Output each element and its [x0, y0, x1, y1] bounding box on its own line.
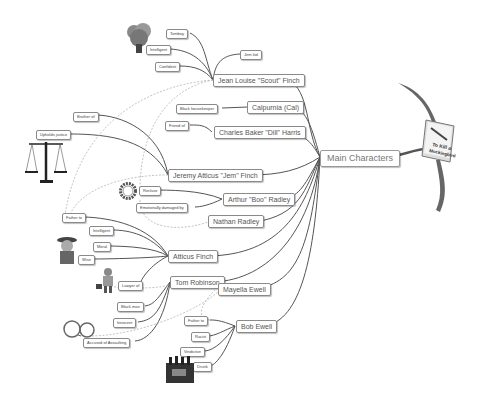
- trait-racist[interactable]: Racist: [191, 332, 210, 342]
- character-mayella[interactable]: Mayella Ewell: [218, 283, 271, 296]
- scales-of-justice-icon: [24, 140, 68, 184]
- character-boo[interactable]: Arthur "Boo" Radley: [223, 193, 295, 206]
- ring-icon: [118, 181, 138, 201]
- character-calpurnia[interactable]: Calpurnia (Cal): [247, 101, 304, 114]
- trait-wise[interactable]: Wise: [78, 255, 95, 265]
- trait-upholds-justice[interactable]: Upholds justice: [36, 130, 71, 140]
- central-topic[interactable]: Main Characters: [320, 150, 400, 167]
- trait-friend-of[interactable]: Friend of: [165, 121, 189, 131]
- trait-tomboy[interactable]: Tomboy: [166, 29, 188, 39]
- beer-crate-icon: [165, 355, 195, 385]
- handcuffs-icon: [62, 318, 96, 344]
- trait-black-housekeeper[interactable]: Black housekeeper: [176, 104, 218, 114]
- lawyer-icon: [56, 235, 78, 265]
- character-jem[interactable]: Jeremy Atticus "Jem" Finch: [168, 169, 263, 182]
- trait-jem-kid[interactable]: Jem kid: [240, 50, 262, 60]
- character-dill[interactable]: Charles Baker "Dill" Harris: [214, 126, 306, 139]
- to-kill-a-mockingbird-book-icon[interactable]: To Kill a Mockingbird: [420, 116, 456, 164]
- trait-innocent[interactable]: Innocent: [113, 318, 136, 328]
- character-bob[interactable]: Bob Ewell: [236, 320, 277, 333]
- trait-lawyer-of[interactable]: Lawyer of: [118, 281, 143, 291]
- trait-emotionally-damaged-by[interactable]: Emotionally damaged by: [136, 203, 188, 213]
- trait-drunk[interactable]: Drunk: [193, 362, 212, 372]
- character-atticus[interactable]: Atticus Finch: [168, 250, 218, 263]
- trait-intelligent[interactable]: Intelligent: [89, 226, 114, 236]
- trait-confident[interactable]: Confident: [155, 62, 180, 72]
- businessman-icon: [96, 266, 120, 294]
- trait-recluse[interactable]: Recluse: [139, 186, 161, 196]
- tree-icon: [126, 22, 152, 54]
- trait-brother-of[interactable]: Brother of: [73, 112, 99, 122]
- character-nathan[interactable]: Nathan Radley: [208, 215, 264, 228]
- character-scout[interactable]: Jean Louise "Scout" Finch: [213, 74, 305, 87]
- trait-black-man[interactable]: Black man: [117, 302, 144, 312]
- mind-map-canvas: Main Characters To Kill a Mockingbird Je…: [0, 0, 480, 409]
- trait-moral[interactable]: Moral: [93, 242, 111, 252]
- trait-father-to[interactable]: Father to: [62, 213, 86, 223]
- trait-father-to[interactable]: Father to: [184, 316, 208, 326]
- character-tom[interactable]: Tom Robinson: [170, 276, 225, 289]
